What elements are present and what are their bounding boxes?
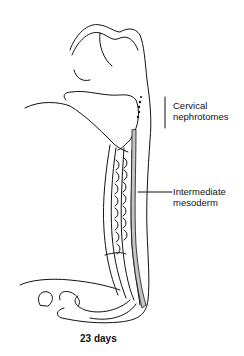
intermediate-mesoderm-band — [131, 130, 146, 308]
label-line-2: nephrotomes — [173, 111, 228, 122]
label-line-1: Intermediate — [173, 186, 226, 197]
label-line-1: Cervical — [173, 100, 228, 111]
embryo-drawing — [0, 0, 244, 356]
intermediate-mesoderm-label: Intermediate mesoderm — [173, 186, 226, 208]
cervical-nephrotomes-label: Cervical nephrotomes — [173, 100, 228, 122]
label-line-2: mesoderm — [173, 197, 226, 208]
figure-caption: 23 days — [80, 333, 117, 344]
